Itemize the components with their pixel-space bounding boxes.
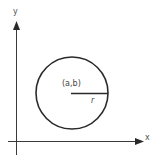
- x-axis-arrow-icon: [135, 138, 144, 145]
- x-axis-label: x: [145, 134, 150, 142]
- circle-diagram: y x (a,b) r: [0, 0, 160, 163]
- center-label: (a,b): [62, 80, 81, 88]
- y-axis-arrow-icon: [13, 21, 20, 30]
- y-axis-label: y: [13, 8, 18, 16]
- radius-label: r: [91, 97, 94, 105]
